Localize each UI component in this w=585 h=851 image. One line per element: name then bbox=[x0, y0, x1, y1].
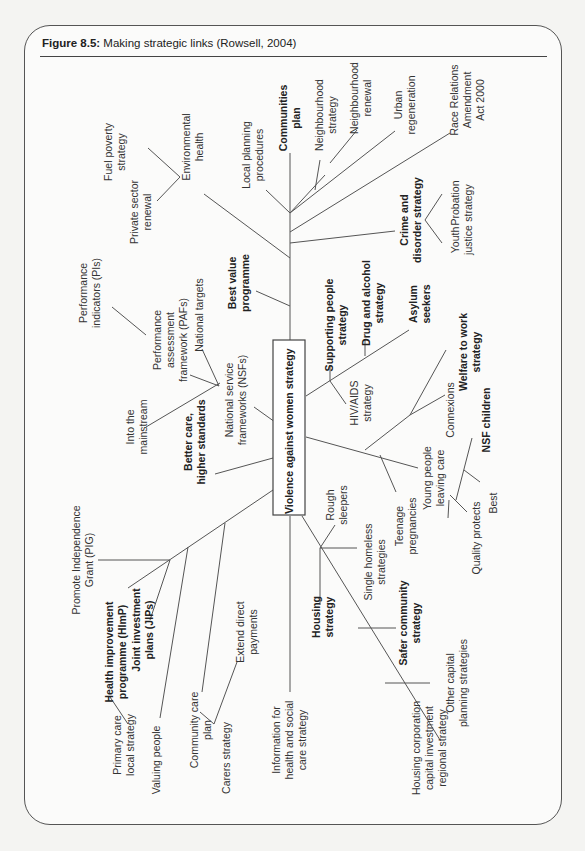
node-probation: Probationstrategy bbox=[449, 180, 474, 225]
node-paf: Performanceassessmentframework (PAFs) bbox=[151, 298, 189, 382]
node-into-mainstream: Into themainstream bbox=[124, 399, 149, 454]
node-neighbourhood-strategy: Neighbourhoodstrategy bbox=[313, 79, 338, 151]
node-best: Best bbox=[487, 492, 499, 513]
node-himp: Health improvementprogramme (HImP) bbox=[103, 601, 128, 702]
strategy-diagram: Violence against women strategy Fuel pov… bbox=[0, 0, 585, 851]
node-urban-regeneration: Urbanregeneration bbox=[392, 75, 417, 134]
node-supporting-people: Supporting peoplestrategy bbox=[323, 278, 348, 371]
node-quality-protects: Quality protects bbox=[470, 502, 482, 575]
node-connexions: Connexions bbox=[444, 382, 456, 437]
node-best-value: Best valueprogramme bbox=[226, 254, 251, 312]
node-housing-strategy: Housingstrategy bbox=[310, 596, 335, 638]
node-community-care-plan: Community careplan bbox=[188, 692, 213, 769]
node-private-sector-renewal: Private sectorrenewal bbox=[128, 179, 153, 244]
node-nsf-children: NSF children bbox=[480, 388, 492, 453]
node-fuel-poverty: Fuel povertystrategy bbox=[102, 122, 127, 181]
node-housing-corporation: Housing corporationcapital investmentreg… bbox=[410, 701, 448, 795]
node-hiv-aids: HIV/AIDSstrategy bbox=[348, 381, 373, 426]
node-single-homeless: Single homelessstrategies bbox=[362, 523, 387, 600]
node-drug-alcohol: Drug and alcoholstrategy bbox=[360, 260, 385, 346]
center-label: Violence against women strategy bbox=[283, 348, 295, 514]
node-better-care: Better care,higher standards bbox=[182, 399, 207, 484]
node-local-planning: Local planningprocedures bbox=[240, 121, 265, 189]
node-welfare-to-work: Welfare to workstrategy bbox=[457, 313, 482, 391]
node-crime-disorder: Crime anddisorder strategy bbox=[398, 177, 423, 263]
node-communities-plan: Communitiesplan bbox=[277, 85, 302, 152]
node-rough-sleepers: Roughsleepers bbox=[324, 485, 349, 525]
node-info-health-social-care: Information forhealth and socialcare str… bbox=[270, 701, 308, 780]
node-safer-community: Safer communitystrategy bbox=[397, 580, 422, 665]
node-primary-care: Primary carelocal strategy bbox=[111, 713, 136, 776]
node-neighbourhood-renewal: Neighbourhoodrenewal bbox=[348, 62, 373, 134]
node-young-people-leaving-care: Young peopleleaving care bbox=[421, 446, 446, 510]
node-asylum-seekers: Asylumseekers bbox=[407, 284, 432, 323]
node-carers-strategy: Carers strategy bbox=[220, 721, 232, 794]
node-environmental-health: Environmentalhealth bbox=[180, 113, 205, 180]
node-teenage-pregnancies: Teenagepregnancies bbox=[393, 497, 418, 554]
node-jip: Joint investmentplans (JIPs) bbox=[130, 588, 155, 672]
node-performance-indicators: Performanceindicators (PIs) bbox=[77, 258, 102, 328]
node-nsf: National serviceframeworks (NSFs) bbox=[223, 355, 248, 445]
node-extend-direct-payments: Extend directpayments bbox=[234, 601, 259, 662]
node-race-relations: Race RelationsAmendmentAct 2000 bbox=[448, 64, 486, 135]
node-national-targets: National targets bbox=[193, 278, 205, 352]
node-valuing-people: Valuing people bbox=[150, 725, 162, 794]
node-youth-justice: Youthjustice bbox=[449, 225, 474, 256]
node-pig: Promote IndependenceGrant (PIG) bbox=[70, 505, 95, 614]
